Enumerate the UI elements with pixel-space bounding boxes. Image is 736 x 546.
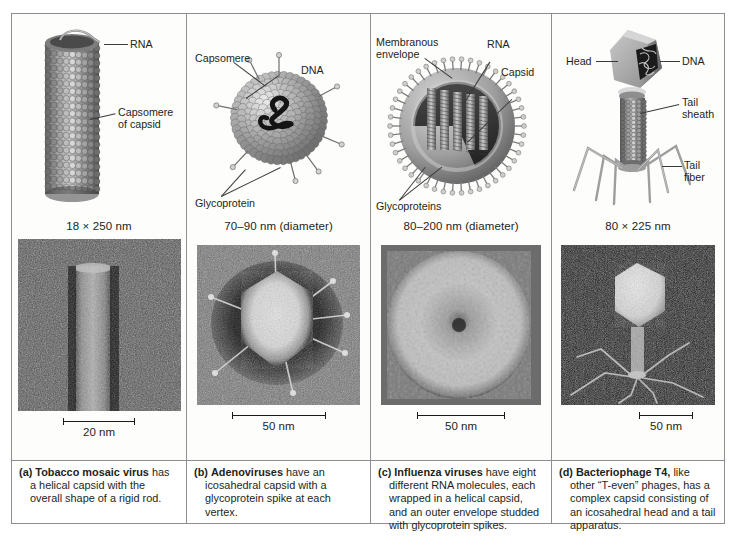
caption-b-marker: (b): [194, 466, 208, 478]
caption-d-marker: (d): [559, 466, 573, 478]
label-glycoproteins-c: Glycoproteins: [376, 200, 441, 212]
illustration-bacteriophage-t4: Head DNA Tail sheath Tail fiber: [552, 14, 724, 213]
leader-line-tail-fiber-d: [662, 166, 682, 167]
caption-a: (a) Tobacco mosaic virus has a helical c…: [12, 461, 187, 523]
leader-line-head-d: [596, 61, 618, 62]
micrograph-adenovirus: [197, 245, 360, 405]
label-capsomere-b: Capsomere: [195, 52, 250, 64]
influenza-micrograph-svg: [381, 245, 541, 405]
illustration-influenza-virus: Membranous envelope RNA Capsid Glycoprot…: [371, 14, 551, 213]
label-tail-fiber-d: Tail fiber: [684, 159, 705, 184]
caption-d-title: Bacteriophage T4,: [576, 466, 670, 478]
scale-bar-line-a: [63, 418, 135, 425]
scale-bar-a: 20 nm: [63, 418, 135, 438]
micrograph-tobacco-mosaic-virus: [18, 239, 181, 411]
scale-bar-line-d: [639, 412, 693, 419]
dimension-label-a: 18 × 250 nm: [12, 213, 186, 239]
adenovirus-diagram-svg: [187, 14, 370, 213]
scale-bar-line-b: [232, 412, 326, 419]
phage-micrograph-svg: [561, 245, 715, 405]
scale-bar-line-c: [417, 412, 505, 419]
scale-bar-b: 50 nm: [232, 412, 326, 432]
label-tail-sheath-d: Tail sheath: [682, 96, 714, 121]
caption-b: (b) Adenoviruses have an icosahedral cap…: [187, 461, 371, 523]
illustration-adenovirus: Capsomere DNA Glycoprotein: [187, 14, 370, 213]
label-dna-b: DNA: [301, 64, 324, 76]
scale-bar-label-c: 50 nm: [445, 420, 477, 432]
label-rna-c: RNA: [487, 38, 510, 50]
label-glycoprotein-b: Glycoprotein: [195, 197, 255, 209]
panel-bacteriophage-t4: Head DNA Tail sheath Tail fiber 80 × 225…: [552, 14, 724, 523]
leader-line-rna: [104, 44, 128, 45]
dimension-label-c: 80–200 nm (diameter): [371, 213, 551, 239]
caption-c-marker: (c): [378, 466, 391, 478]
leader-line-dna-d: [660, 61, 680, 62]
panel-adenovirus: Capsomere DNA Glycoprotein 70–90 nm (dia…: [187, 14, 371, 523]
caption-d: (d) Bacteriophage T4, like other “T-even…: [552, 461, 724, 523]
scale-bar-label-d: 50 nm: [650, 420, 682, 432]
scale-bar-label-b: 50 nm: [263, 420, 295, 432]
scale-bar-d: 50 nm: [583, 412, 693, 432]
caption-a-marker: (a): [19, 466, 32, 478]
panel-tobacco-mosaic-virus: RNA Capsomere of capsid 18 × 250 nm: [12, 14, 187, 523]
virus-structure-figure: RNA Capsomere of capsid 18 × 250 nm: [11, 13, 725, 524]
label-membranous-envelope: Membranous envelope: [376, 36, 438, 61]
scale-bar-c: 50 nm: [417, 412, 505, 432]
caption-c-title: Influenza viruses: [394, 466, 482, 478]
panel-influenza-virus: Membranous envelope RNA Capsid Glycoprot…: [371, 14, 552, 523]
dimension-label-d: 80 × 225 nm: [552, 213, 724, 239]
micrograph-influenza-virus: [381, 245, 541, 405]
tmv-micrograph-svg: [18, 239, 181, 411]
label-rna: RNA: [130, 38, 153, 50]
label-dna-d: DNA: [682, 55, 705, 67]
label-capsid-c: Capsid: [501, 66, 534, 78]
adenovirus-micrograph-svg: [197, 245, 360, 405]
illustration-tobacco-mosaic-virus: RNA Capsomere of capsid: [12, 14, 186, 213]
label-head-d: Head: [566, 55, 592, 67]
caption-strip: (a) Tobacco mosaic virus has a helical c…: [11, 460, 725, 524]
caption-b-title: Adenoviruses: [211, 466, 283, 478]
caption-a-title: Tobacco mosaic virus: [35, 466, 149, 478]
dimension-label-b: 70–90 nm (diameter): [187, 213, 370, 239]
micrograph-bacteriophage-t4: [561, 245, 715, 405]
scale-bar-label-a: 20 nm: [83, 426, 115, 438]
label-capsomere-of-capsid: Capsomere of capsid: [118, 106, 173, 131]
caption-c: (c) Influenza viruses have eight differe…: [371, 461, 552, 523]
